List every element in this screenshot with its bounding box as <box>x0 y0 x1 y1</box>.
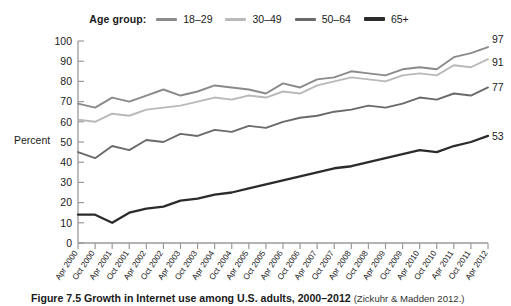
series-line-65+ <box>78 136 488 223</box>
y-tick-label-40: 40 <box>60 156 72 168</box>
y-tick-label-90: 90 <box>60 55 72 67</box>
series-end-labels: 97917753 <box>492 33 504 142</box>
figure-caption: Figure 7.5 Growth in Internet use among … <box>31 291 511 306</box>
chart-plot-area: 0102030405060708090100 Apr 2000Oct 2000A… <box>0 0 511 306</box>
y-tick-label-50: 50 <box>60 136 72 148</box>
data-series-lines <box>78 47 488 223</box>
line-chart-svg: 0102030405060708090100 Apr 2000Oct 2000A… <box>0 0 511 290</box>
y-tick-label-30: 30 <box>60 176 72 188</box>
y-tick-label-70: 70 <box>60 95 72 107</box>
y-axis-title: Percent <box>14 134 50 146</box>
y-axis-tick-labels: 0102030405060708090100 <box>54 35 72 249</box>
y-tick-label-60: 60 <box>60 116 72 128</box>
y-tick-label-20: 20 <box>60 196 72 208</box>
x-axis-tick-labels: Apr 2000Oct 2000Apr 2001Oct 2001Apr 2002… <box>54 249 490 282</box>
x-axis-ticks <box>78 243 488 249</box>
y-tick-label-80: 80 <box>60 75 72 87</box>
caption-title: Growth in Internet use among U.S. adults… <box>84 292 351 304</box>
end-label-50-64: 77 <box>492 81 504 93</box>
caption-source: (Zickuhr & Madden 2012.) <box>354 293 465 304</box>
end-label-18-29: 97 <box>492 33 504 45</box>
y-axis-ticks <box>78 41 84 243</box>
caption-figure-number: Figure 7.5 <box>31 292 81 304</box>
y-tick-label-100: 100 <box>54 35 72 47</box>
figure-internet-use: Age group: 18–29 30–49 50–64 65+ 0102030… <box>0 0 511 306</box>
y-tick-label-0: 0 <box>66 237 72 249</box>
end-label-65+: 53 <box>492 130 504 142</box>
y-tick-label-10: 10 <box>60 217 72 229</box>
end-label-30-49: 91 <box>492 56 504 68</box>
